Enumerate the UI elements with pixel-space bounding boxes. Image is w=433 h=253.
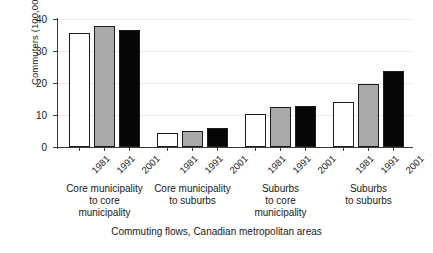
x-tick-year-label: 1981: [89, 153, 112, 176]
x-tick-mark: [129, 147, 130, 151]
bar[interactable]: [69, 33, 90, 147]
x-tick-year-label: 1981: [177, 153, 200, 176]
x-tick-mark: [167, 147, 168, 151]
bar[interactable]: [157, 133, 178, 147]
x-tick-mark: [192, 147, 193, 151]
y-tick-mark: 30: [53, 51, 57, 52]
bar[interactable]: [295, 106, 316, 147]
bar-group: [69, 19, 140, 147]
x-tick-year-label: 1991: [378, 153, 401, 176]
x-tick-year-label: 2001: [227, 153, 250, 176]
y-tick-mark: 20: [53, 83, 57, 84]
x-tick-mark: [393, 147, 394, 151]
x-tick-mark: [280, 147, 281, 151]
x-tick-mark: [104, 147, 105, 151]
x-axis-line: [53, 147, 413, 148]
bar[interactable]: [383, 71, 404, 147]
bar[interactable]: [207, 128, 228, 147]
x-tick-mark: [305, 147, 306, 151]
x-tick-mark: [368, 147, 369, 151]
y-tick-mark: 0: [53, 147, 57, 148]
bar[interactable]: [333, 102, 354, 147]
bar[interactable]: [270, 107, 291, 147]
y-tick-mark: 10: [53, 115, 57, 116]
x-axis-title: Commuting flows, Canadian metropolitan a…: [0, 226, 433, 237]
bar[interactable]: [119, 30, 140, 147]
x-tick-year-label: 2001: [403, 153, 426, 176]
x-tick-mark: [79, 147, 80, 151]
x-tick-mark: [255, 147, 256, 151]
plot-area: 010203040: [57, 20, 412, 148]
y-tick-label: 10: [36, 110, 47, 121]
x-tick-year-label: 1981: [265, 153, 288, 176]
bar[interactable]: [94, 26, 115, 147]
y-tick-label: 20: [36, 78, 47, 89]
y-tick-mark: 40: [53, 19, 57, 20]
x-tick-year-label: 1981: [353, 153, 376, 176]
x-tick-mark: [217, 147, 218, 151]
x-tick-year-label: 1991: [290, 153, 313, 176]
x-tick-year-label: 2001: [139, 153, 162, 176]
bar-group: [245, 19, 316, 147]
bar-group: [157, 19, 228, 147]
x-tick-year-label: 2001: [315, 153, 338, 176]
bar-group: [333, 19, 404, 147]
bar-chart-figure: Commuters (100,000s) 010203040 198119912…: [0, 0, 433, 253]
bar[interactable]: [245, 114, 266, 147]
y-tick-label: 40: [36, 14, 47, 25]
y-tick-label: 30: [36, 46, 47, 57]
group-caption: Suburbs to suburbs: [314, 183, 424, 207]
y-tick-label: 0: [41, 142, 47, 153]
x-tick-year-label: 1991: [114, 153, 137, 176]
x-tick-mark: [343, 147, 344, 151]
bar[interactable]: [182, 131, 203, 147]
bar[interactable]: [358, 84, 379, 147]
x-tick-year-label: 1991: [202, 153, 225, 176]
